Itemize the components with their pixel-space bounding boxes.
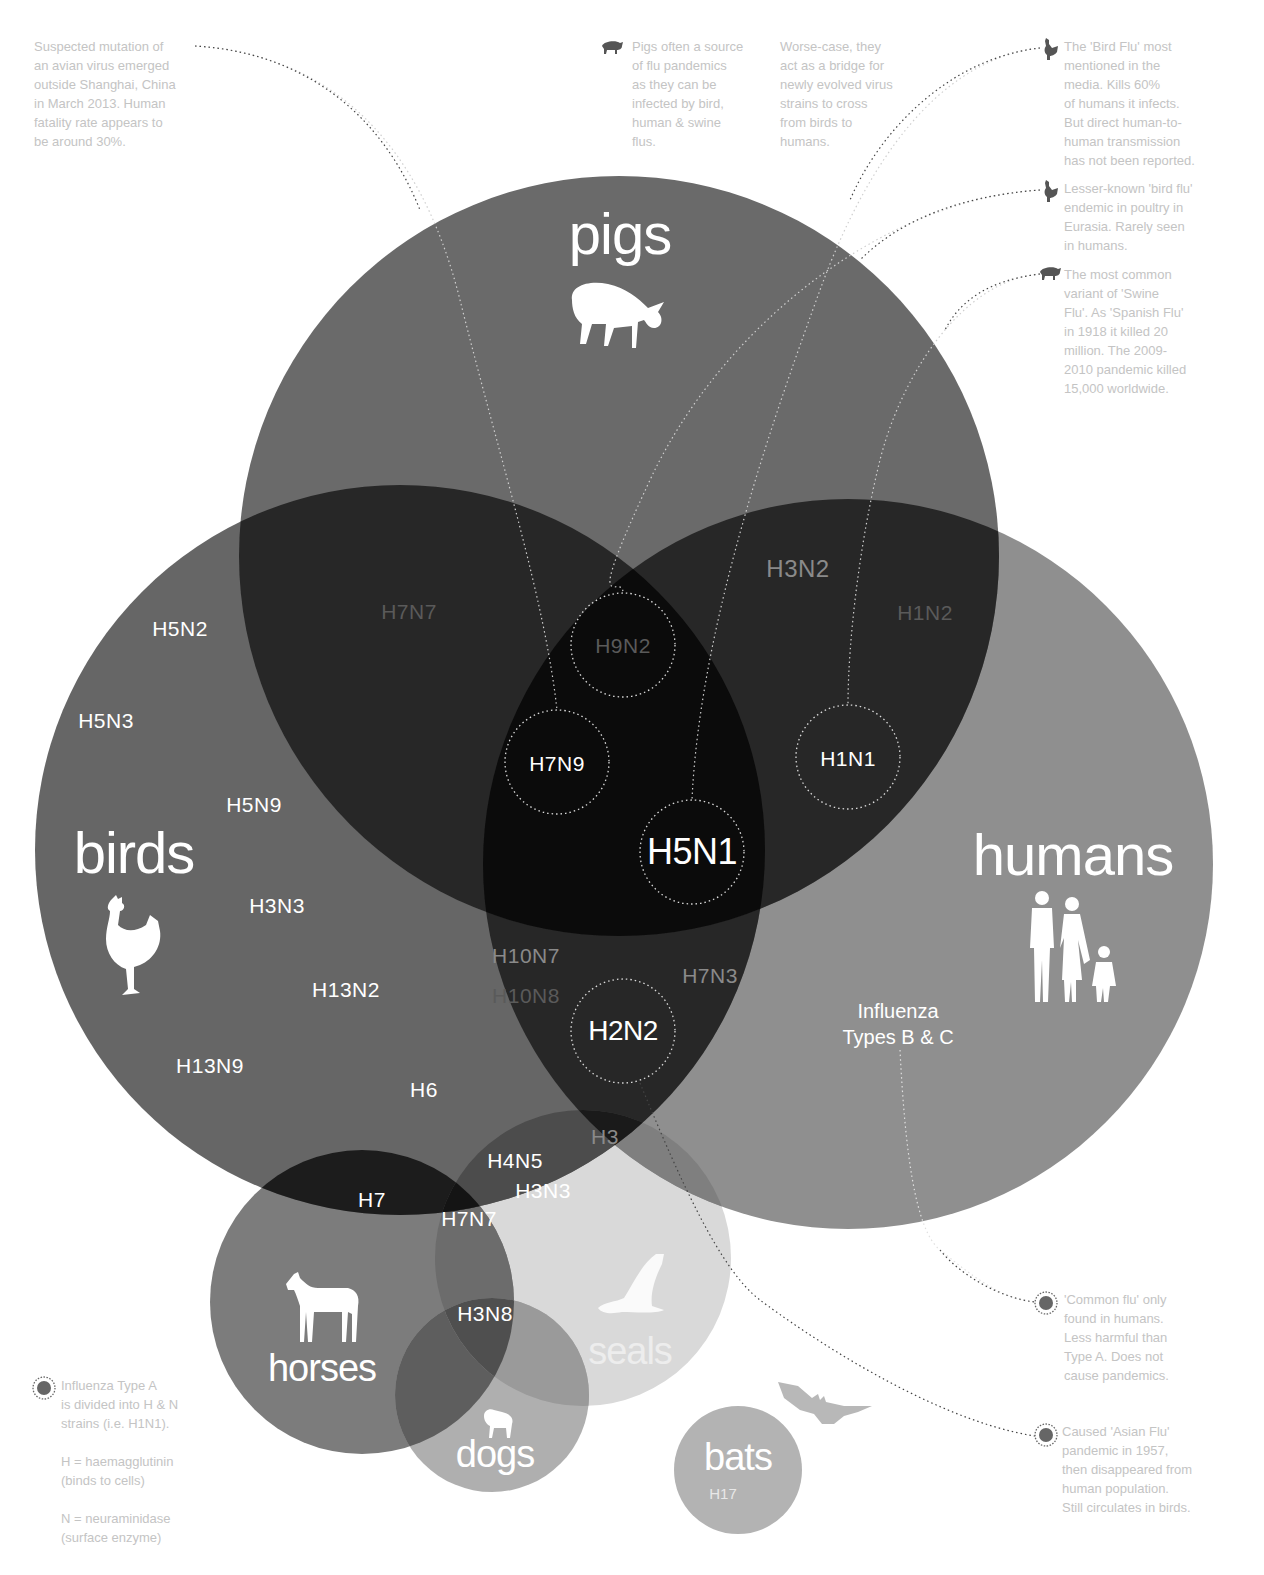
influenza-bc-label: Influenza Types B & C [842, 998, 953, 1050]
note-pigs-source: Pigs often a source of flu pandemics as … [632, 37, 772, 151]
note-h9n2: Lesser-known 'bird flu' endemic in poult… [1064, 179, 1264, 255]
strain-h7n9: H7N9 [529, 753, 585, 774]
dogs-title: dogs [456, 1435, 534, 1473]
strain-label: H7 [358, 1189, 386, 1210]
strain-label: H7N3 [682, 965, 738, 986]
strain-label: H3N8 [457, 1303, 513, 1324]
note-h7n9: Suspected mutation of an avian virus eme… [34, 37, 204, 151]
bats-strain: H17 [709, 1486, 737, 1501]
strain-label: H5N9 [226, 794, 282, 815]
strain-h2n2: H2N2 [588, 1017, 658, 1045]
virus-icon-h2n2 [1035, 1424, 1057, 1446]
note-legend: Influenza Type A is divided into H & N s… [61, 1376, 221, 1547]
note-common-flu: 'Common flu' only found in humans. Less … [1064, 1290, 1264, 1385]
note-pigs-bridge: Worse-case, they act as a bridge for new… [780, 37, 930, 151]
strain-label: H5N2 [152, 618, 208, 639]
strain-label: H3N3 [515, 1180, 571, 1201]
strain-label: H3N3 [249, 895, 305, 916]
bats-title: bats [704, 1438, 772, 1476]
virus-icon-common-flu [1035, 1292, 1057, 1314]
humans-title: humans [973, 826, 1173, 884]
strain-label: H4N5 [487, 1150, 543, 1171]
bat-icon [778, 1382, 872, 1424]
strain-label: H7N7 [381, 601, 437, 622]
virus-icon-legend [33, 1377, 55, 1399]
strain-label: H10N7 [492, 945, 560, 966]
pig-note-icon [602, 41, 623, 54]
strain-label: H13N2 [312, 979, 380, 1000]
note-h2n2: Caused 'Asian Flu' pandemic in 1957, the… [1062, 1422, 1262, 1517]
seals-title: seals [588, 1332, 672, 1370]
birds-title: birds [74, 824, 195, 882]
rooster-note-icon-2 [1045, 180, 1058, 202]
strain-label: H1N2 [897, 602, 953, 623]
strain-label: H7N7 [441, 1208, 497, 1229]
strain-h9n2: H9N2 [595, 635, 651, 656]
strain-h5n1: H5N1 [647, 834, 737, 870]
flu-venn-infographic: pigs birds humans horses seals dogs bats… [0, 0, 1264, 1575]
strain-label: H6 [410, 1079, 438, 1100]
strain-label: H3N2 [766, 557, 829, 581]
note-h1n1: The most common variant of 'Swine Flu'. … [1064, 265, 1264, 398]
horses-title: horses [268, 1349, 376, 1387]
strain-label: H3 [591, 1126, 619, 1147]
note-h5n1: The 'Bird Flu' most mentioned in the med… [1064, 37, 1264, 170]
rooster-note-icon-1 [1045, 38, 1058, 60]
strain-label: H5N3 [78, 710, 134, 731]
pigs-title: pigs [569, 205, 671, 263]
strain-label: H10N8 [492, 985, 560, 1006]
strain-label: H13N9 [176, 1055, 244, 1076]
pig-note-icon-2 [1040, 267, 1061, 280]
strain-h1n1: H1N1 [820, 748, 876, 769]
